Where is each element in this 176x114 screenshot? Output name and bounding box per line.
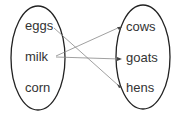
arrowhead-goats-icon — [117, 57, 122, 61]
right-item-goats: goats — [126, 51, 158, 65]
arrow-milk-cows — [56, 27, 120, 56]
right-item-hens: hens — [126, 81, 154, 95]
left-item-corn: corn — [25, 81, 50, 95]
left-item-milk: milk — [25, 50, 48, 64]
right-item-cows: cows — [126, 20, 156, 34]
left-item-eggs: eggs — [25, 19, 53, 33]
